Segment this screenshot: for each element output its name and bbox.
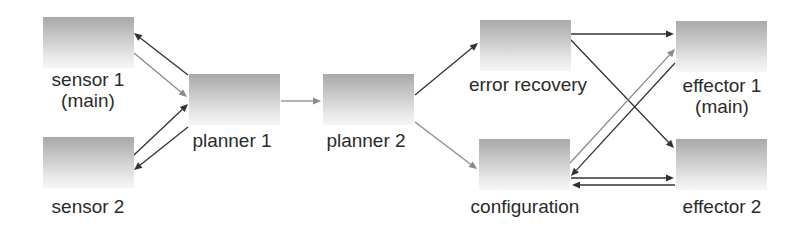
edge-line (140, 38, 188, 75)
edge-sensor2-to-planner1 (134, 104, 188, 155)
arrowhead-icon (666, 31, 674, 38)
node-label-error-recovery: error recovery (469, 74, 587, 95)
node-box-planner1 (189, 74, 280, 125)
node-box-sensor2 (43, 137, 134, 188)
edge-line (415, 122, 471, 164)
edge-line (134, 109, 182, 155)
arrowhead-icon (469, 161, 477, 169)
edge-line (415, 48, 472, 95)
arrowhead-icon (666, 175, 674, 182)
node-label-sensor1: sensor 1(main) (52, 69, 125, 111)
node-label-sensor2: sensor 2 (52, 196, 125, 217)
edge-line (140, 127, 188, 165)
node-label-effector1: effector 1(main) (683, 75, 762, 117)
node-box-effector2 (676, 139, 767, 190)
node-label-line: effector 2 (683, 196, 762, 217)
edge-line (134, 53, 181, 92)
node-label-line: error recovery (469, 74, 587, 95)
edge-line (570, 55, 670, 163)
node-label-line: configuration (471, 196, 580, 217)
node-label-line: sensor 2 (52, 196, 125, 217)
arrowhead-icon (134, 33, 142, 41)
node-box-effector1 (676, 21, 767, 72)
node-box-planner2 (323, 74, 414, 125)
node-label-planner1: planner 1 (192, 130, 271, 151)
edge-planner1-to-planner2 (281, 98, 321, 105)
node-box-sensor1 (43, 17, 134, 68)
node-box-error-recovery (480, 20, 571, 71)
edge-planner2-to-configuration (415, 122, 477, 169)
edge-effector2-to-configuration (572, 182, 675, 189)
edge-planner1-to-sensor1 (134, 33, 188, 75)
arrowhead-icon (134, 162, 142, 170)
node-label-line: effector 1 (683, 75, 762, 96)
node-label-effector2: effector 2 (683, 196, 762, 217)
node-box-configuration (479, 139, 570, 190)
node-label-configuration: configuration (471, 196, 580, 217)
edge-configuration-to-effector2 (571, 175, 674, 182)
edge-planner1-to-sensor2 (134, 127, 188, 170)
node-label-line: sensor 1 (52, 69, 125, 90)
edge-error-recovery-to-effector1 (570, 31, 674, 38)
edge-sensor1-to-planner1 (134, 53, 187, 97)
node-label-line: planner 2 (326, 130, 405, 151)
node-label-line: planner 1 (192, 130, 271, 151)
arrowhead-icon (313, 98, 321, 105)
arrowhead-icon (572, 182, 580, 189)
node-label-planner2: planner 2 (326, 130, 405, 151)
diagram-canvas: sensor 1(main)sensor 2planner 1planner 2… (0, 0, 805, 228)
edge-line (576, 63, 675, 170)
node-label-line: (main) (52, 90, 125, 111)
edge-configuration-to-effector1 (570, 49, 675, 163)
node-label-line: (main) (683, 96, 762, 117)
